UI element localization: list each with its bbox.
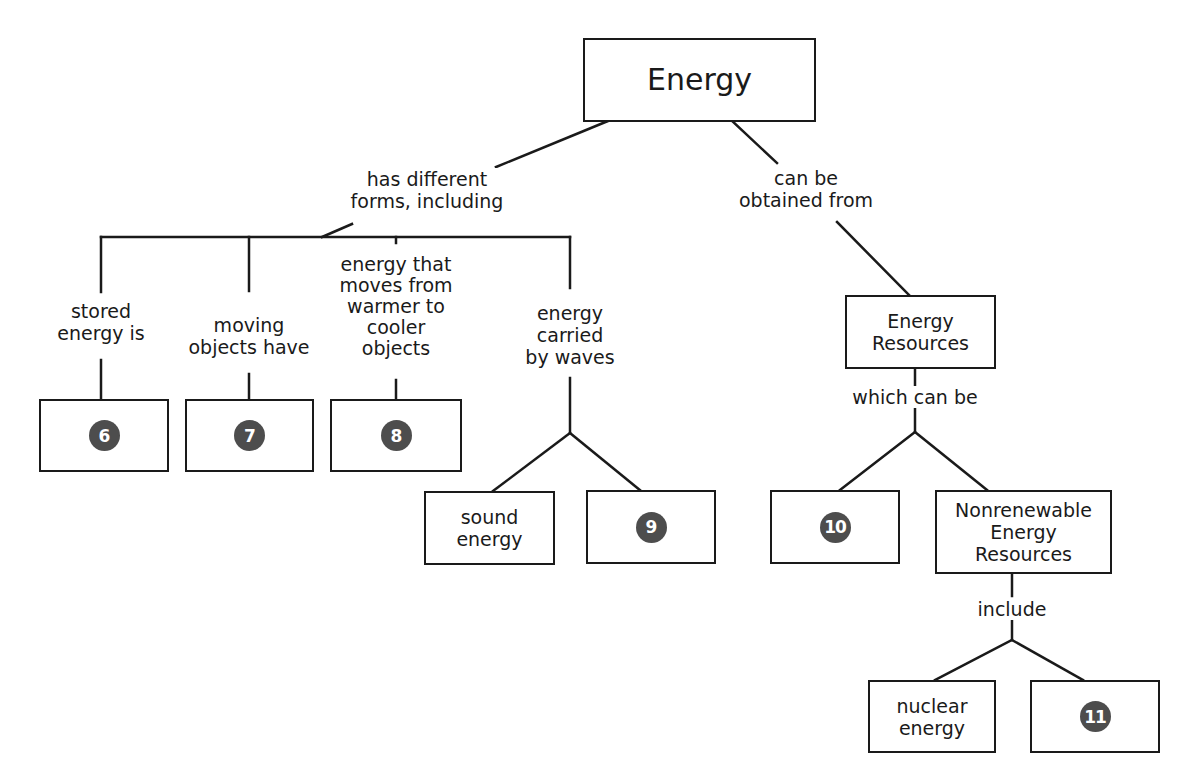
answer-box-10[interactable]: 10 [770,490,900,564]
form-label-waves: energy carried by waves [525,302,614,368]
node-nuclear-energy-label: nuclear energy [897,695,968,739]
node-energy-resources: Energy Resources [845,295,996,369]
node-sound-energy: sound energy [424,491,555,565]
answer-box-9[interactable]: 9 [586,490,716,564]
root-node-energy: Energy [583,38,816,122]
link-label-forms: has different forms, including [351,168,504,212]
answer-box-6[interactable]: 6 [39,399,169,472]
answer-number-badge-8: 8 [381,420,412,451]
answer-number-badge-9: 9 [636,512,667,543]
node-sound-energy-label: sound energy [456,506,522,550]
answer-number-badge-6: 6 [89,420,120,451]
link-label-which: which can be [852,386,977,408]
form-label-moving: moving objects have [188,314,309,358]
form-label-stored: stored energy is [57,300,144,344]
node-nonrenewable-resources: Nonrenewable Energy Resources [935,490,1112,574]
root-node-label: Energy [647,69,752,91]
link-label-include: include [978,598,1047,620]
form-label-heat: energy that moves from warmer to cooler … [339,254,452,359]
answer-box-11[interactable]: 11 [1030,680,1160,753]
node-nonrenewable-label: Nonrenewable Energy Resources [955,499,1092,565]
answer-number-badge-11: 11 [1080,701,1111,732]
answer-number-badge-10: 10 [820,512,851,543]
answer-box-7[interactable]: 7 [185,399,314,472]
answer-box-8[interactable]: 8 [330,399,462,472]
link-label-obtained: can be obtained from [739,167,873,211]
node-energy-resources-label: Energy Resources [872,310,969,354]
answer-number-badge-7: 7 [234,420,265,451]
node-nuclear-energy: nuclear energy [868,680,996,753]
